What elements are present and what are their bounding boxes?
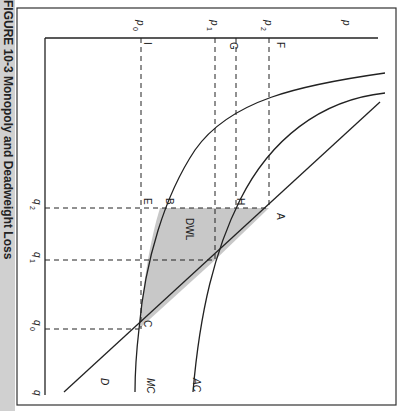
- point-i-label: I: [142, 42, 153, 45]
- ac-label: AC: [191, 377, 202, 393]
- q-axis-label: q: [32, 390, 43, 396]
- svg-text:0: 0: [29, 327, 36, 331]
- svg-text:1: 1: [29, 259, 36, 263]
- q1-label: q: [32, 252, 43, 258]
- mc-label: MC: [145, 378, 156, 394]
- point-e-label: E: [142, 198, 153, 205]
- p1-label: p: [209, 19, 220, 26]
- point-h-label: H: [235, 198, 246, 205]
- svg-text:1: 1: [206, 27, 213, 31]
- demand-curve: [64, 102, 380, 392]
- point-a-label: A: [275, 213, 286, 220]
- point-c-label: C: [142, 320, 153, 327]
- point-g-label: G: [228, 42, 239, 50]
- ac-curve: [193, 93, 385, 392]
- q2-label: q: [32, 199, 43, 205]
- point-b-label: B: [164, 198, 175, 205]
- svg-text:2: 2: [29, 206, 36, 210]
- monopoly-deadweight-loss-chart: p p 0 p 1 p 2 q 2 q 1 q 0 q I G F E B H …: [0, 0, 401, 411]
- demand-label: D: [99, 378, 110, 385]
- svg-text:2: 2: [260, 27, 267, 31]
- p0-label: p: [135, 19, 146, 26]
- p-axis-label: p: [341, 19, 352, 26]
- p2-label: p: [263, 19, 274, 26]
- svg-text:0: 0: [132, 27, 139, 31]
- point-f-label: F: [275, 42, 286, 48]
- dwl-label: DWL: [184, 218, 195, 241]
- figure-frame: [17, 8, 396, 405]
- q0-label: q: [32, 320, 43, 326]
